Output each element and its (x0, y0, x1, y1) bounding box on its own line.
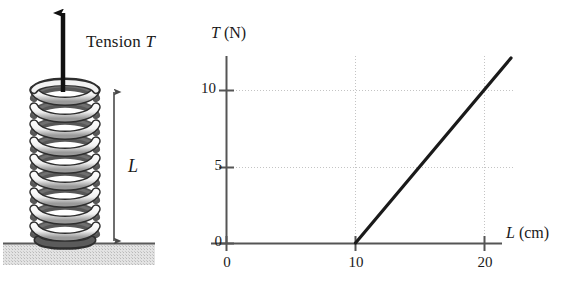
y-tick-label: 5 (196, 157, 222, 174)
y-axis-label: T (N) (211, 24, 246, 42)
length-label: L (128, 156, 138, 177)
tension-length-graph (211, 56, 513, 251)
y-tick-label: 0 (196, 233, 222, 250)
data-line-tension (356, 58, 512, 243)
vertical-gridlines (356, 56, 485, 243)
x-tick-label: 20 (470, 254, 500, 271)
y-tick-label: 10 (190, 80, 216, 97)
tension-label: Tension T (86, 32, 155, 52)
horizontal-gridlines (227, 91, 513, 168)
x-tick-label: 10 (341, 254, 371, 271)
x-tick-label: 0 (212, 254, 242, 271)
coil-spring (34, 82, 96, 246)
x-axis-label: L (cm) (506, 224, 549, 242)
